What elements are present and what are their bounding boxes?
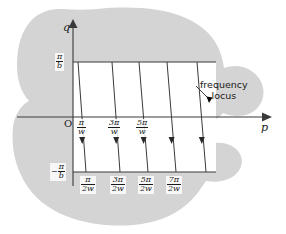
y-tick-pi-over-b: π b xyxy=(55,53,64,71)
x-tick-lower-3: 5π 2w xyxy=(138,176,154,194)
x-tick-lower-3-denominator: 2w xyxy=(139,185,153,193)
x-tick-lower-1: π 2w xyxy=(80,176,96,194)
figure-canvas xyxy=(0,0,286,234)
origin-label: O xyxy=(63,119,73,129)
x-tick-upper-1: π w xyxy=(76,119,87,137)
y-tick-minus-pi-over-b: − π b xyxy=(50,163,66,181)
figure-root: q p O π b − π b π w 3π w 5π w xyxy=(0,0,286,234)
x-tick-lower-2-denominator: 2w xyxy=(111,185,125,193)
x-tick-lower-4-denominator: 2w xyxy=(167,185,181,193)
y-tick-minus-pi-over-b-denominator: b xyxy=(58,172,65,180)
x-tick-lower-1-denominator: 2w xyxy=(81,185,95,193)
y-tick-pi-over-b-denominator: b xyxy=(56,62,63,70)
x-tick-lower-4: 7π 2w xyxy=(166,176,182,194)
p-axis-label: p xyxy=(260,122,269,133)
frequency-locus-annotation: frequency locus xyxy=(199,80,249,102)
x-tick-upper-3: 5π w xyxy=(135,119,149,137)
x-tick-upper-1-denominator: w xyxy=(77,128,86,136)
x-tick-upper-3-denominator: w xyxy=(136,128,148,136)
x-tick-lower-2: 3π 2w xyxy=(110,176,126,194)
q-axis-label: q xyxy=(62,22,71,33)
x-tick-upper-2: 3π w xyxy=(107,119,121,137)
y-tick-minus-sign: − xyxy=(51,168,58,176)
x-tick-upper-2-denominator: w xyxy=(108,128,120,136)
frequency-locus-annotation-line2: locus xyxy=(200,91,248,102)
